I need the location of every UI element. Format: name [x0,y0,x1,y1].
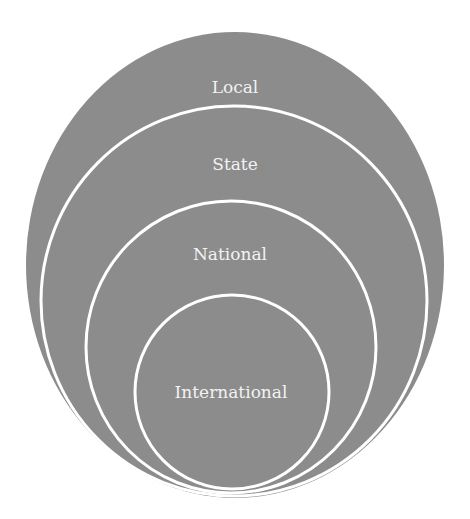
local-label: Local [212,77,259,97]
national-label: National [193,244,267,264]
state-label: State [212,154,258,174]
international-label: International [175,382,288,402]
nested-circles-diagram: Local State National International [0,0,470,519]
